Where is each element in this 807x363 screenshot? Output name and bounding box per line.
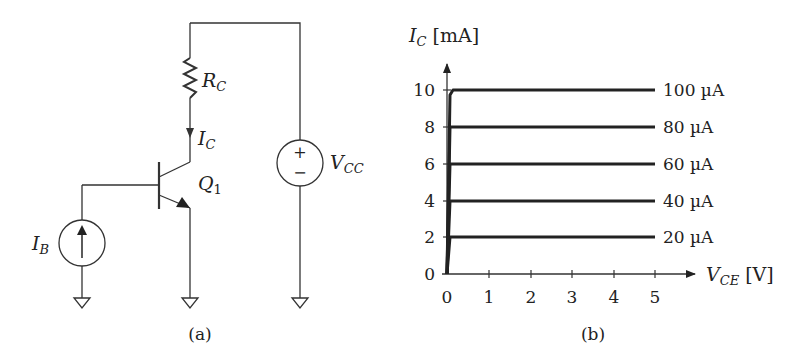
- y-axis-title: IC [mA]: [408, 24, 479, 49]
- base-current-label: IB: [31, 232, 49, 257]
- x-tick-label: 0: [442, 287, 453, 307]
- curve-label-80ua: 80 µA: [663, 117, 714, 137]
- y-tick-label: 2: [424, 227, 435, 247]
- current-source-arrowhead-icon: [77, 225, 87, 235]
- collector-current-label: IC: [197, 127, 216, 152]
- y-tick-label: 6: [424, 154, 435, 174]
- transistor-label: Q1: [198, 172, 222, 197]
- x-tick-label: 5: [650, 287, 661, 307]
- caption-a: (a): [188, 324, 211, 344]
- caption-b: (b): [581, 324, 605, 344]
- x-tick-label: 4: [609, 287, 620, 307]
- ground-icon: [292, 298, 308, 308]
- ground-icon: [182, 298, 198, 308]
- base-wire: [82, 185, 159, 220]
- resistor-label: RC: [201, 69, 226, 94]
- x-tick-label: 2: [526, 287, 537, 307]
- figure-canvas: + − RC IC Q1 IB VCC (a): [0, 0, 807, 363]
- y-tick-label: 0: [424, 264, 435, 284]
- y-tick-label: 8: [424, 117, 435, 137]
- curve-labels: 20 µA 40 µA 60 µA 80 µA 100 µA: [663, 80, 725, 247]
- y-tick-label: 10: [413, 80, 435, 100]
- transistor-collector-leg: [159, 162, 190, 177]
- curve-20ua: [447, 237, 655, 274]
- curve-100ua: [447, 90, 655, 274]
- x-tick-labels: 0 1 2 3 4 5: [442, 287, 661, 307]
- curve-label-60ua: 60 µA: [663, 154, 714, 174]
- ground-icon: [74, 298, 90, 308]
- y-tick-labels: 0 2 4 6 8 10: [413, 80, 435, 284]
- y-tick-label: 4: [424, 191, 435, 211]
- x-axis-title: VCE [V]: [706, 263, 774, 288]
- iv-chart: [442, 64, 695, 278]
- curve-label-100ua: 100 µA: [663, 80, 725, 100]
- resistor-rc: [184, 58, 196, 98]
- x-tick-label: 3: [567, 287, 578, 307]
- supply-minus-sign: −: [293, 163, 306, 182]
- curve-label-20ua: 20 µA: [663, 227, 714, 247]
- curve-label-40ua: 40 µA: [663, 191, 714, 211]
- collector-current-arrow-icon: [186, 128, 194, 138]
- ic-curves: [447, 90, 655, 274]
- x-tick-label: 1: [484, 287, 495, 307]
- supply-voltage-label: VCC: [330, 151, 364, 176]
- curve-60ua: [447, 164, 655, 274]
- circuit-diagram: [59, 23, 323, 308]
- supply-plus-sign: +: [293, 143, 306, 162]
